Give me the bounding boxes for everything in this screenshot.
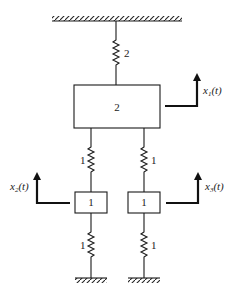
top-spring-label: 2	[124, 47, 130, 59]
right-mass-label: 1	[141, 196, 147, 208]
right-upper-spring	[141, 128, 147, 192]
left-upper-spring-label: 1	[80, 154, 86, 166]
x1-arrow-icon	[165, 73, 201, 106]
left-bottom-ground	[75, 278, 107, 283]
main-mass-label: 2	[114, 101, 120, 113]
mass-spring-diagram: 2 2 x1(t) 1 1 1 1 x2(t) x3(t) 1 1	[0, 0, 235, 300]
left-upper-spring	[88, 128, 94, 192]
top-spring	[113, 21, 119, 85]
x3-label: x3(t)	[204, 180, 224, 194]
right-bottom-ground	[128, 278, 160, 283]
right-lower-spring	[141, 213, 147, 278]
left-mass-label: 1	[88, 196, 94, 208]
top-ground	[52, 16, 182, 21]
x2-label: x2(t)	[9, 180, 29, 194]
x1-label: x1(t)	[202, 84, 222, 98]
right-lower-spring-label: 1	[151, 239, 157, 251]
x2-arrow-icon	[33, 172, 70, 203]
right-upper-spring-label: 1	[151, 154, 157, 166]
left-lower-spring	[88, 213, 94, 278]
x3-arrow-icon	[166, 172, 202, 203]
left-lower-spring-label: 1	[80, 239, 86, 251]
